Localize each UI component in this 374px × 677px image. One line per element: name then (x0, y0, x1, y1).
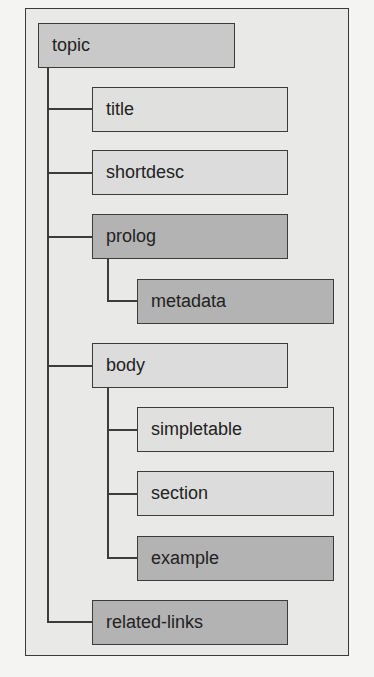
connector-body (47, 365, 92, 367)
node-label: example (151, 548, 219, 569)
node-label: section (151, 483, 208, 504)
node-body: body (92, 343, 288, 388)
connector-simpletable (107, 429, 137, 431)
node-label: title (106, 99, 134, 120)
connector-shortdesc (47, 172, 92, 174)
connector-related-links (47, 621, 92, 623)
node-example: example (137, 536, 334, 581)
node-label: simpletable (151, 419, 242, 440)
node-prolog: prolog (92, 214, 288, 259)
node-title: title (92, 87, 288, 132)
node-simpletable: simpletable (137, 407, 334, 452)
connector-prolog (47, 236, 92, 238)
node-label: topic (52, 35, 90, 56)
node-label: shortdesc (106, 162, 184, 183)
connector-title (47, 108, 92, 110)
connector-example (107, 557, 137, 559)
node-related-links: related-links (92, 600, 288, 645)
connector-body-trunk (107, 387, 109, 558)
node-label: body (106, 355, 145, 376)
node-label: related-links (106, 612, 203, 633)
connector-section (107, 493, 137, 495)
node-shortdesc: shortdesc (92, 150, 288, 195)
node-topic: topic (38, 23, 235, 68)
connector-metadata (107, 300, 137, 302)
node-metadata: metadata (137, 279, 334, 324)
connector-prolog-trunk (107, 258, 109, 301)
node-label: metadata (151, 291, 226, 312)
node-section: section (137, 471, 334, 516)
connector-trunk (47, 67, 49, 622)
node-label: prolog (106, 226, 156, 247)
